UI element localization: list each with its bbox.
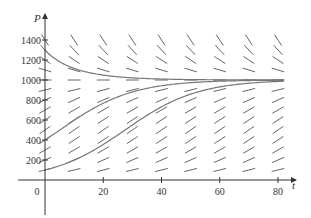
slope-segment — [243, 107, 254, 113]
slope-segment — [272, 107, 283, 113]
x-tick-label: 0 — [35, 186, 40, 197]
slope-segment — [69, 136, 80, 143]
slope-segment — [126, 157, 138, 162]
slope-segment — [68, 107, 79, 113]
slope-segment — [98, 126, 109, 133]
slope-segment — [213, 88, 226, 91]
slope-segment — [97, 168, 110, 171]
slope-segment — [243, 147, 254, 153]
slope-segment — [272, 68, 284, 72]
solution-curve — [45, 50, 284, 80]
slope-segment — [128, 45, 137, 55]
x-tick-label: 20 — [98, 186, 108, 197]
y-tick-label: 1400 — [21, 35, 41, 46]
slope-segment — [215, 45, 224, 55]
x-tick-label: 60 — [215, 186, 225, 197]
slope-segment — [126, 168, 139, 171]
slope-segment — [214, 126, 225, 133]
slope-segment — [68, 147, 79, 153]
slope-segment — [186, 45, 195, 55]
slope-segment — [243, 97, 255, 102]
slope-segment — [185, 136, 196, 143]
slope-segment — [245, 35, 252, 46]
y-tick-label: 800 — [26, 95, 41, 106]
slope-segment — [243, 116, 254, 123]
slope-segment — [69, 126, 80, 133]
slope-segment — [156, 136, 167, 143]
slope-segment — [272, 157, 284, 162]
slope-segment — [187, 35, 194, 46]
y-tick-label: 1200 — [21, 55, 41, 66]
x-axis-label: t — [292, 179, 296, 191]
y-tick-label: 400 — [26, 135, 41, 146]
slope-segment — [243, 68, 255, 72]
slope-segment — [98, 56, 109, 63]
slope-segment — [272, 168, 285, 171]
slope-segment — [214, 68, 226, 72]
slope-segment — [244, 45, 253, 55]
slope-segment — [98, 107, 109, 113]
y-tick-label: 200 — [26, 155, 41, 166]
slope-segments — [39, 35, 285, 172]
slope-segment — [243, 157, 255, 162]
axes — [18, 14, 296, 215]
slope-segment — [158, 35, 165, 46]
x-tick-label: 40 — [157, 186, 167, 197]
slope-segment — [272, 88, 285, 91]
slope-segment — [155, 68, 167, 72]
y-tick-label: 600 — [26, 115, 41, 126]
slope-segment — [185, 116, 196, 123]
slope-segment — [156, 97, 168, 102]
slope-segment — [243, 56, 254, 63]
slope-segment — [273, 56, 284, 63]
slope-segment — [185, 147, 196, 153]
slope-segment — [214, 136, 225, 143]
slope-segment — [68, 97, 80, 102]
slope-segment — [184, 68, 196, 72]
slope-segment — [243, 88, 256, 91]
slope-segment — [157, 45, 166, 55]
slope-segment — [127, 147, 138, 153]
slope-segment — [184, 88, 197, 91]
ticks: 020406080200400600800100012001400 — [21, 35, 283, 198]
slope-segment — [68, 88, 81, 91]
slope-segment — [273, 136, 284, 143]
slope-segment — [272, 147, 283, 153]
slope-segment — [184, 168, 197, 171]
slope-segment — [126, 68, 138, 72]
slope-segment — [70, 45, 79, 55]
slope-segment — [156, 147, 167, 153]
slope-segment — [127, 136, 138, 143]
slope-segment — [71, 35, 78, 46]
y-axis-label: P — [33, 12, 41, 24]
slope-segment — [155, 88, 168, 91]
slope-segment — [185, 126, 196, 133]
slope-segment — [97, 157, 109, 162]
y-tick-label: 1000 — [21, 75, 41, 86]
slope-segment — [127, 107, 138, 113]
slope-segment — [216, 35, 223, 46]
slope-segment — [68, 168, 81, 171]
slope-segment — [156, 116, 167, 123]
slope-segment — [155, 168, 168, 171]
slope-segment — [185, 157, 197, 162]
slope-segment — [213, 168, 226, 171]
slope-segment — [156, 126, 167, 133]
slope-segment — [185, 107, 196, 113]
slope-segment — [272, 97, 284, 102]
slope-segment — [127, 56, 138, 63]
slope-segment — [156, 107, 167, 113]
solution-curve — [45, 81, 284, 170]
slope-segment — [97, 88, 110, 91]
slope-segment — [97, 68, 109, 72]
slope-segment — [100, 35, 107, 46]
slope-segment — [214, 116, 225, 123]
slope-segment — [214, 147, 225, 153]
slope-segment — [156, 157, 168, 162]
slope-segment — [98, 116, 109, 123]
slope-segment — [214, 56, 225, 63]
slope-segment — [243, 136, 254, 143]
slope-segment — [98, 147, 109, 153]
direction-field-chart: 020406080200400600800100012001400 P t — [0, 0, 311, 218]
slope-segment — [214, 157, 226, 162]
